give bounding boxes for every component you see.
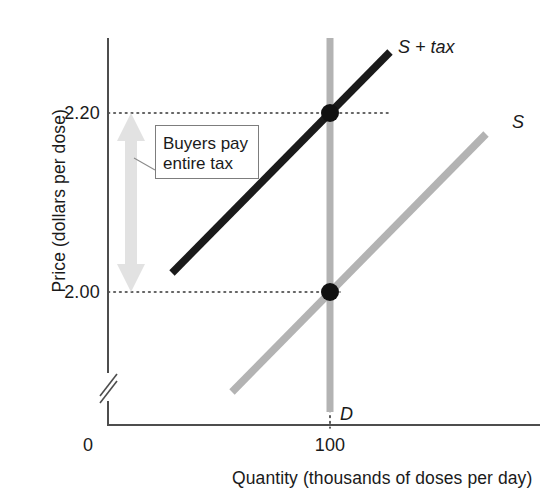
y-tick-label-200: 2.00 xyxy=(30,283,100,301)
axis-break-icon xyxy=(100,373,117,403)
plot-area xyxy=(0,0,560,498)
x-tick-label-100: 100 xyxy=(305,436,355,454)
callout-box: Buyers pay entire tax xyxy=(155,125,259,179)
y-tick-label-220: 2.20 xyxy=(30,104,100,122)
point-equilibrium-with-tax xyxy=(321,104,339,122)
curve-label-supply-plus-tax: S + tax xyxy=(398,38,455,56)
curve-label-supply: S xyxy=(512,113,524,131)
origin-label: 0 xyxy=(83,436,93,454)
tax-arrow xyxy=(117,113,145,292)
callout-leader-line xyxy=(134,158,155,170)
curve-label-demand: D xyxy=(340,405,353,423)
callout-text: Buyers pay entire tax xyxy=(163,134,255,175)
point-equilibrium-no-tax xyxy=(321,283,339,301)
supply-demand-tax-figure: Buyers pay entire tax Price (dollars per… xyxy=(0,0,560,498)
x-axis-title: Quantity (thousands of doses per day) xyxy=(232,470,532,488)
